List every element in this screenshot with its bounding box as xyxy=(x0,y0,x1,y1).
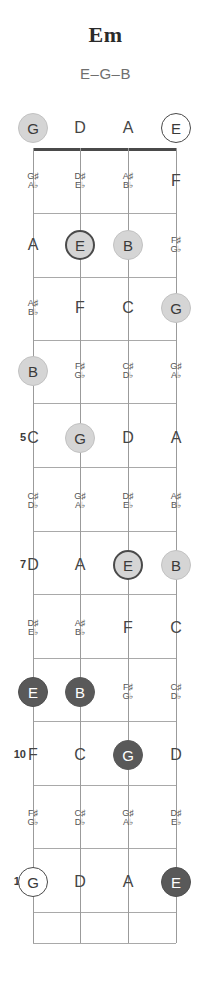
note-label: F xyxy=(154,162,198,200)
fretboard-diagram: GDAEG♯A♭D♯E♭A♯B♭FAEBF♯G♭A♯B♭FCGBF♯G♭C♯D♭… xyxy=(0,0,211,993)
string-line xyxy=(128,912,129,943)
fret-line xyxy=(33,912,176,913)
note-label-accidental: A♯B♭ xyxy=(106,162,150,200)
fret-line xyxy=(33,403,176,404)
note-label: F xyxy=(11,736,55,774)
note-label: D xyxy=(58,863,102,901)
note-label: D xyxy=(106,419,150,457)
note-marker: G xyxy=(58,419,102,457)
note-label-accidental: D♯E♭ xyxy=(11,609,55,647)
string-line xyxy=(176,912,177,943)
nut-line xyxy=(33,148,176,151)
note-marker: B xyxy=(106,226,150,264)
note-label: D xyxy=(11,546,55,584)
note-label-accidental: G♯A♭ xyxy=(106,799,150,837)
note-marker: B xyxy=(58,673,102,711)
note-marker: E xyxy=(154,109,198,147)
note-label-accidental: A♯B♭ xyxy=(154,482,198,520)
note-marker: G xyxy=(11,863,55,901)
note-marker: G xyxy=(106,736,150,774)
fret-line xyxy=(33,848,176,849)
note-label: A xyxy=(11,226,55,264)
note-label: D xyxy=(58,109,102,147)
fret-line xyxy=(33,721,176,722)
note-label: A xyxy=(58,546,102,584)
note-label: C xyxy=(106,289,150,327)
note-marker-circle: E xyxy=(161,113,191,143)
note-label-accidental: G♯A♭ xyxy=(58,482,102,520)
note-marker-circle: E xyxy=(113,550,143,580)
note-label: F xyxy=(58,289,102,327)
fret-line xyxy=(33,658,176,659)
note-marker-circle: B xyxy=(113,230,143,260)
fret-line xyxy=(33,467,176,468)
note-label: F xyxy=(106,609,150,647)
string-line xyxy=(33,912,34,943)
fret-line xyxy=(33,943,176,944)
note-label-accidental: F♯G♭ xyxy=(154,226,198,264)
note-label-accidental: A♯B♭ xyxy=(11,289,55,327)
fret-line xyxy=(33,785,176,786)
note-label: A xyxy=(106,863,150,901)
fret-line xyxy=(33,277,176,278)
note-label-accidental: D♯E♭ xyxy=(58,162,102,200)
note-label-accidental: F♯G♭ xyxy=(11,799,55,837)
note-marker: E xyxy=(11,673,55,711)
note-label-accidental: G♯A♭ xyxy=(11,162,55,200)
note-marker-circle: E xyxy=(161,867,191,897)
note-label: C xyxy=(58,736,102,774)
note-marker: E xyxy=(106,546,150,584)
note-marker-circle: G xyxy=(18,113,48,143)
note-marker-circle: G xyxy=(18,867,48,897)
note-label-accidental: F♯G♭ xyxy=(58,352,102,390)
string-line xyxy=(80,912,81,943)
note-marker: B xyxy=(11,352,55,390)
note-marker: B xyxy=(154,546,198,584)
note-marker-circle: B xyxy=(65,677,95,707)
note-marker: G xyxy=(154,289,198,327)
note-marker-circle: B xyxy=(161,550,191,580)
note-label-accidental: A♯B♭ xyxy=(58,609,102,647)
note-marker-circle: G xyxy=(113,740,143,770)
note-label: A xyxy=(154,419,198,457)
note-label-accidental: C♯D♭ xyxy=(154,673,198,711)
fret-line xyxy=(33,594,176,595)
note-label-accidental: F♯G♭ xyxy=(106,673,150,711)
note-marker-circle: E xyxy=(18,677,48,707)
note-label: C xyxy=(11,419,55,457)
note-marker-circle: E xyxy=(65,230,95,260)
note-marker: E xyxy=(58,226,102,264)
fret-line xyxy=(33,531,176,532)
note-marker: E xyxy=(154,863,198,901)
fret-line xyxy=(33,340,176,341)
note-marker-circle: G xyxy=(161,293,191,323)
note-label: C xyxy=(154,609,198,647)
fret-line xyxy=(33,213,176,214)
note-label: D xyxy=(154,736,198,774)
note-label-accidental: D♯E♭ xyxy=(154,799,198,837)
note-label-accidental: D♯E♭ xyxy=(106,482,150,520)
note-marker-circle: G xyxy=(65,423,95,453)
note-label-accidental: G♯A♭ xyxy=(154,352,198,390)
note-marker: G xyxy=(11,109,55,147)
note-marker-circle: B xyxy=(18,356,48,386)
note-label-accidental: C♯D♭ xyxy=(58,799,102,837)
note-label: A xyxy=(106,109,150,147)
note-label-accidental: C♯D♭ xyxy=(106,352,150,390)
note-label-accidental: C♯D♭ xyxy=(11,482,55,520)
